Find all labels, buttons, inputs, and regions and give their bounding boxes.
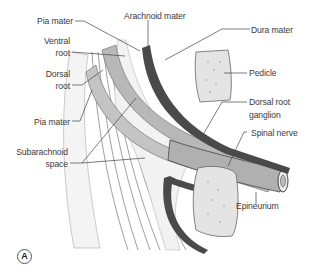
label-ventral-root-1: Ventral <box>30 35 70 47</box>
pedicle <box>195 50 231 102</box>
label-dorsal-root-2: root <box>30 80 70 92</box>
label-arachnoid-mater: Arachnoid mater <box>124 10 186 22</box>
label-subarachnoid-2: space <box>8 158 68 170</box>
vertebral-body <box>193 166 238 236</box>
label-spinal-nerve: Spinal nerve <box>251 127 298 139</box>
label-ventral-root-2: root <box>30 47 70 59</box>
label-pia-mater-bottom: Pia mater <box>18 116 70 128</box>
label-dorsal-root-ganglion-1: Dorsal root <box>249 96 290 108</box>
label-dorsal-root-1: Dorsal <box>30 68 70 80</box>
label-subarachnoid-1: Subarachnoid <box>8 146 68 158</box>
label-dura-mater: Dura mater <box>251 24 293 36</box>
label-epineurium: Epineurium <box>236 200 278 212</box>
label-dorsal-root-ganglion-2: ganglion <box>249 109 281 121</box>
panel-label: A <box>17 249 32 264</box>
spinal-nerve-root-diagram: Pia mater Arachnoid mater Dura mater Ven… <box>0 0 313 277</box>
label-pia-mater-top: Pia mater <box>22 15 73 27</box>
label-pedicle: Pedicle <box>249 67 277 79</box>
